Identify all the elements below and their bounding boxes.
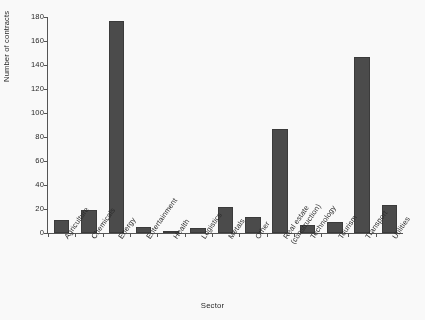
bar xyxy=(354,57,370,233)
x-label-slot: Entertainment xyxy=(129,236,156,300)
x-label-slot: Metals xyxy=(211,236,238,300)
bar-slot xyxy=(321,17,348,233)
x-label-slot: Agriculture xyxy=(47,236,74,300)
x-label-slot: Energy xyxy=(102,236,129,300)
x-label-slot: Transport xyxy=(348,236,375,300)
bar-slot xyxy=(267,17,294,233)
bar-slot xyxy=(185,17,212,233)
x-label-slot: Tourism xyxy=(321,236,348,300)
x-label-slot: Technology xyxy=(294,236,321,300)
bar xyxy=(272,129,288,233)
x-axis-tick-labels: AgricultureChemicalsEnergyEntertainmentH… xyxy=(47,236,403,300)
bar-slot xyxy=(348,17,375,233)
x-label-slot: Chemicals xyxy=(74,236,101,300)
x-axis-title: Sector xyxy=(0,301,425,310)
bar-slot xyxy=(239,17,266,233)
x-label-slot: Utilities xyxy=(376,236,403,300)
bar-series xyxy=(48,17,403,233)
bar-slot xyxy=(212,17,239,233)
x-label-slot: Logistics xyxy=(184,236,211,300)
bar-slot xyxy=(130,17,157,233)
bar-slot xyxy=(75,17,102,233)
bar-slot xyxy=(376,17,403,233)
y-axis-title: Number of contracts xyxy=(2,0,16,82)
bar xyxy=(109,21,125,233)
plot-area: 020406080100120140160180 xyxy=(47,17,403,234)
x-label-slot: Real estate(construction) xyxy=(266,236,293,300)
bar-slot xyxy=(103,17,130,233)
bar-chart: Number of contracts 02040608010012014016… xyxy=(0,0,425,320)
bar-slot xyxy=(48,17,75,233)
x-label-slot: Other xyxy=(239,236,266,300)
x-label-slot: Health xyxy=(157,236,184,300)
